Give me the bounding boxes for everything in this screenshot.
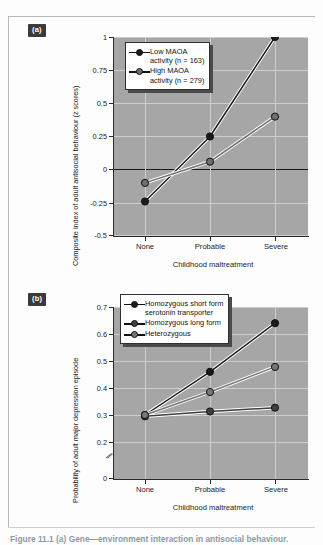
panel-b-xtick-probable: Probable xyxy=(186,485,234,494)
panel-b: (b) Probability of adult major depressio… xyxy=(8,281,315,528)
panel-b-xtick-severe: Severe xyxy=(254,485,298,494)
panel-a-tag: (a) xyxy=(28,24,46,37)
legend-label: Low MAOA activity (n = 163) xyxy=(150,47,204,65)
panel-a-xtick-none: None xyxy=(125,242,165,251)
panel-b-x-axis-label: Childhood maltreatment xyxy=(133,503,293,512)
panel-a-x-axis xyxy=(113,236,309,237)
panel-a-ytick-3: 0.25 xyxy=(69,132,107,141)
panel-a-y-axis xyxy=(113,37,114,237)
panel-b-ytick-6: 0 xyxy=(67,474,107,483)
panel-b-tag: (b) xyxy=(28,293,46,306)
panel-a-legend: Low MAOA activity (n = 163) High MAOA ac… xyxy=(125,42,210,90)
legend-label: Heterozygous xyxy=(145,329,191,338)
panel-b-ytick-0: 0.7 xyxy=(67,303,107,312)
legend-marker-icon xyxy=(124,319,145,328)
panel-b-ytick-2: 0.5 xyxy=(67,357,107,366)
panel-b-ytick-1: 0.6 xyxy=(67,330,107,339)
legend-marker-icon xyxy=(129,48,150,57)
legend-item-heterozygous: Heterozygous xyxy=(124,329,223,339)
panel-b-legend: Homozygous short form serotonin transpor… xyxy=(120,294,229,344)
panel-b-ytick-3: 0.4 xyxy=(67,384,107,393)
legend-marker-icon xyxy=(124,300,145,309)
panel-b-x-axis xyxy=(113,479,309,480)
legend-item-homozygous-short: Homozygous short form serotonin transpor… xyxy=(124,299,223,317)
panel-a-ytick-4: 0 xyxy=(69,165,107,174)
legend-label: Homozygous short form serotonin transpor… xyxy=(145,299,223,317)
legend-item-homozygous-long: Homozygous long form xyxy=(124,318,223,328)
panel-b-xtick-none: None xyxy=(125,485,165,494)
legend-label: High MAOA activity (n = 279) xyxy=(150,66,204,84)
y-axis-break-icon: ⁄⁄ xyxy=(107,451,113,461)
panel-a-ytick-6: -0.5 xyxy=(65,231,107,240)
panel-a-xtick-severe: Severe xyxy=(254,242,298,251)
panel-a-xtick-probable: Probable xyxy=(186,242,234,251)
figure-root: (a) Composite index of adult antisocial … xyxy=(0,0,323,545)
panel-a-ytick-2: 0.5 xyxy=(69,99,107,108)
legend-item-low-maoa: Low MAOA activity (n = 163) xyxy=(129,47,204,65)
panel-a-ytick-0: 1 xyxy=(69,33,107,42)
legend-marker-icon xyxy=(124,330,145,339)
panel-a-ytick-1: 0.75 xyxy=(69,66,107,75)
legend-marker-icon xyxy=(129,67,150,76)
panel-b-ytick-4: 0.3 xyxy=(67,411,107,420)
panel-b-y-axis xyxy=(113,307,114,479)
legend-item-high-maoa: High MAOA activity (n = 279) xyxy=(129,66,204,84)
figure-caption: Figure 11.1 (a) Gene—environment interac… xyxy=(10,534,315,545)
panel-a-ytick-5: -0.25 xyxy=(65,199,107,208)
legend-label: Homozygous long form xyxy=(145,318,221,327)
panel-a: (a) Composite index of adult antisocial … xyxy=(8,16,315,281)
panel-b-ytick-5: 0.2 xyxy=(67,438,107,447)
panel-a-x-axis-label: Childhood maltreatment xyxy=(133,260,293,269)
